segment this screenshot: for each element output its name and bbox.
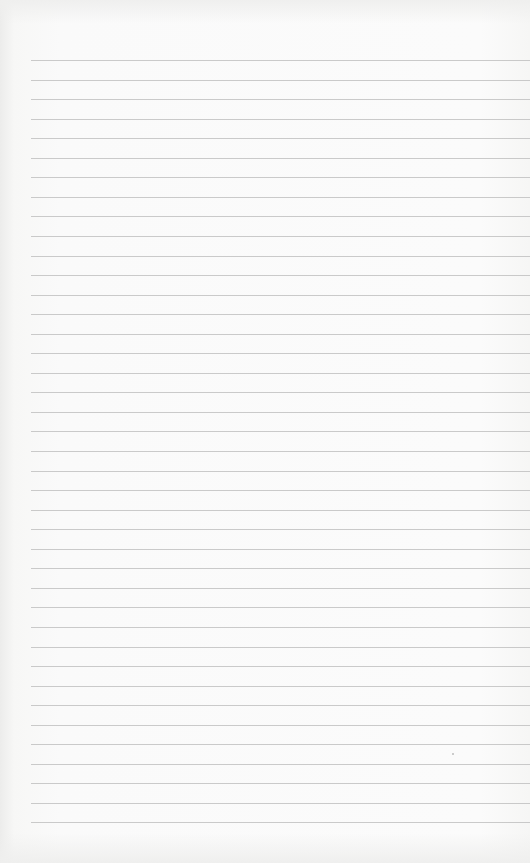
ruled-line [31, 60, 530, 61]
ruled-line [31, 510, 530, 511]
ruled-line [31, 627, 530, 628]
ruled-line [31, 451, 530, 452]
ruled-line [31, 471, 530, 472]
ruled-line [31, 353, 530, 354]
ruled-line [31, 647, 530, 648]
ruled-line [31, 256, 530, 257]
ruled-line [31, 588, 530, 589]
ruled-line [31, 744, 530, 745]
ruled-line [31, 177, 530, 178]
ruled-line [31, 236, 530, 237]
ruled-line [31, 99, 530, 100]
ruled-line [31, 666, 530, 667]
ruled-line [31, 803, 530, 804]
ruled-line [31, 412, 530, 413]
ruled-line [31, 314, 530, 315]
ruled-line [31, 119, 530, 120]
ruled-line [31, 529, 530, 530]
ruled-line [31, 295, 530, 296]
ruled-line [31, 568, 530, 569]
ruled-line [31, 431, 530, 432]
ruled-line [31, 783, 530, 784]
ruled-line [31, 197, 530, 198]
paper-speck [452, 753, 454, 755]
ruled-line [31, 373, 530, 374]
ruled-line [31, 549, 530, 550]
notebook-page [0, 0, 530, 863]
ruled-line [31, 490, 530, 491]
ruled-line [31, 80, 530, 81]
ruled-line [31, 216, 530, 217]
ruled-line [31, 158, 530, 159]
ruled-line [31, 764, 530, 765]
ruled-line [31, 725, 530, 726]
ruled-line [31, 607, 530, 608]
ruled-line [31, 275, 530, 276]
ruled-line [31, 392, 530, 393]
ruled-line [31, 705, 530, 706]
ruled-line [31, 138, 530, 139]
ruled-line [31, 686, 530, 687]
ruled-line [31, 822, 530, 823]
ruled-line [31, 334, 530, 335]
